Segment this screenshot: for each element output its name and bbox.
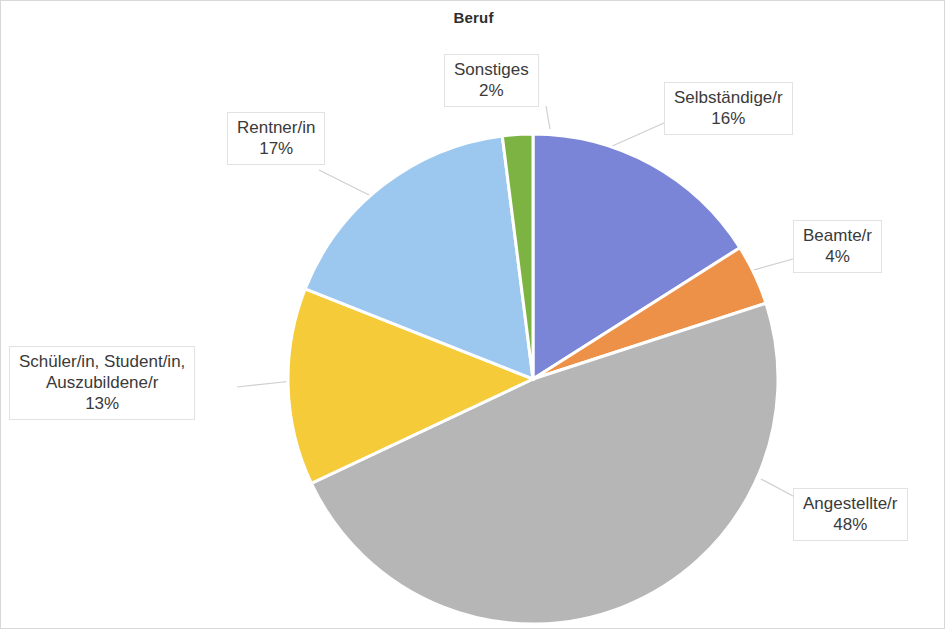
slice-label-name-line2: Auszubildene/r [19,372,185,393]
slice-label-name: Angestellte/r [803,493,898,514]
leader-line-angestellte [761,479,793,496]
slice-label-name: Sonstiges [454,59,529,80]
slice-label-sonstiges: Sonstiges 2% [444,54,539,107]
leader-line-schueler [237,381,293,387]
slice-label-beamte: Beamte/r 4% [793,220,882,273]
slice-label-name-line1: Schüler/in, Student/in, [19,351,185,372]
slice-label-name: Beamte/r [803,225,872,246]
slice-label-name: Rentner/in [237,117,315,138]
slice-label-percent: 16% [674,108,783,129]
slice-label-rentner: Rentner/in 17% [227,112,325,165]
pie-slices [288,134,778,624]
slice-label-percent: 13% [19,393,185,414]
slice-label-angestellte: Angestellte/r 48% [793,488,908,541]
slice-label-name: Selbständige/r [674,87,783,108]
slice-label-selbstaendige: Selbständige/r 16% [664,82,793,135]
slice-label-schueler: Schüler/in, Student/in, Auszubildene/r 1… [9,346,195,420]
slice-label-percent: 2% [454,80,529,101]
leader-line-sonstiges [546,106,550,129]
slice-label-percent: 4% [803,246,872,267]
slice-label-percent: 48% [803,514,898,535]
chart-canvas: Beruf Sonstiges 2% Selbständige/r 16% Be… [0,0,945,629]
slice-label-percent: 17% [237,138,315,159]
